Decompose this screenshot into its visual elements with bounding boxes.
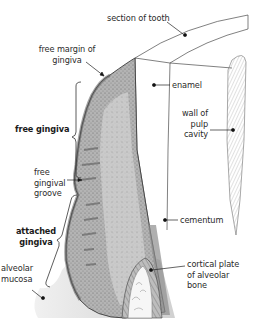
label-free-gingiva: free gingiva <box>15 124 69 135</box>
label-cementum: cementum <box>180 215 223 226</box>
label-alveolar-mucosa: alveolar mucosa <box>1 263 33 284</box>
label-section-of-tooth: section of tooth <box>107 13 170 24</box>
label-attached-gingiva: attached gingiva <box>14 226 58 247</box>
pulp-wall <box>227 55 246 235</box>
label-free-gingival-groove: free gingival groove <box>34 167 65 199</box>
label-free-margin-of-gingiva: free margin of gingiva <box>38 44 96 65</box>
label-cortical-plate-of-alveolar-bone: cortical plate of alveolar bone <box>187 259 239 291</box>
label-wall-of-pulp-cavity: wall of pulp cavity <box>172 108 208 140</box>
label-enamel: enamel <box>172 80 202 91</box>
